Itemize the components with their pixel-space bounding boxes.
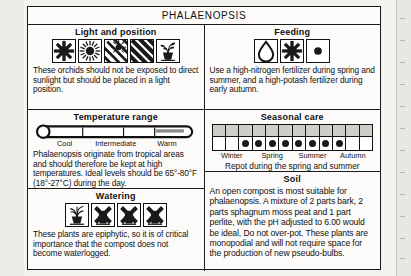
month-cell-header bbox=[253, 125, 265, 137]
soil-heading: Soil bbox=[210, 174, 376, 184]
page-right-edge bbox=[396, 0, 411, 276]
sun-partial-shade-icon bbox=[104, 39, 128, 63]
month-cell bbox=[306, 125, 319, 150]
feeding-text: Use a high-nitrogen fertilizer during sp… bbox=[210, 66, 376, 95]
full-sun-icon bbox=[78, 39, 102, 63]
month-cell-header bbox=[320, 125, 332, 137]
month-cell-marker bbox=[266, 137, 278, 150]
scale-label-warm: Warm bbox=[141, 139, 192, 148]
month-cell bbox=[346, 125, 359, 150]
active-month-dot bbox=[255, 140, 262, 147]
month-cell-marker bbox=[346, 137, 358, 150]
temperature-scale-labels: Cool Intermediate Warm bbox=[33, 139, 199, 148]
month-cell-header bbox=[306, 125, 318, 137]
panel-feeding: Feeding bbox=[205, 25, 381, 109]
light-icon-row bbox=[33, 39, 199, 63]
right-column: Feeding bbox=[205, 25, 381, 271]
watering-blocked-icon bbox=[91, 203, 115, 227]
season-label-summer: Summer bbox=[292, 151, 332, 160]
month-cell-marker bbox=[320, 137, 332, 150]
season-label-autumn: Autumn bbox=[333, 151, 373, 160]
soil-text: An open compost is most suitable for pha… bbox=[210, 186, 376, 259]
card-title-bar: PHALAENOPSIS bbox=[28, 7, 380, 25]
sun-blocked-icon bbox=[52, 39, 76, 63]
month-cell bbox=[293, 125, 306, 150]
month-cell bbox=[239, 125, 252, 150]
active-month-dot bbox=[336, 140, 343, 147]
panel-temperature-range: Temperature range Cool Intermediate Warm bbox=[28, 109, 204, 188]
month-cell bbox=[226, 125, 239, 150]
card-body-grid: Light and position bbox=[28, 25, 380, 271]
scale-label-intermediate: Intermediate bbox=[90, 139, 141, 148]
thermometer-icon bbox=[35, 124, 197, 140]
scale-label-cool: Cool bbox=[39, 139, 90, 148]
light-heading: Light and position bbox=[33, 27, 199, 37]
active-month-dot bbox=[295, 140, 302, 147]
month-cell-header bbox=[226, 125, 238, 137]
potted-plant-icon bbox=[65, 203, 89, 227]
water-drop-icon bbox=[254, 39, 278, 63]
page-title: PHALAENOPSIS bbox=[162, 10, 246, 21]
active-month-dot bbox=[242, 140, 249, 147]
feeding-heading: Feeding bbox=[210, 27, 376, 37]
season-label-winter: Winter bbox=[212, 151, 252, 160]
panel-seasonal-care: Seasonal care Winter Spring Summer Autum… bbox=[205, 109, 381, 171]
active-month-dot bbox=[322, 140, 329, 147]
dot-icon bbox=[306, 39, 330, 63]
sun-blocked-icon bbox=[280, 39, 304, 63]
watering-blocked-icon bbox=[117, 203, 141, 227]
month-cell bbox=[360, 125, 372, 150]
left-column: Light and position bbox=[28, 25, 205, 271]
active-month-dot bbox=[269, 140, 276, 147]
month-cell bbox=[213, 125, 226, 150]
season-labels: Winter Spring Summer Autumn bbox=[212, 151, 374, 160]
month-cell bbox=[279, 125, 292, 150]
potted-plant-icon bbox=[156, 39, 180, 63]
active-month-dot bbox=[309, 140, 316, 147]
month-cell-header bbox=[213, 125, 225, 137]
active-month-dot bbox=[282, 140, 289, 147]
month-cell bbox=[253, 125, 266, 150]
month-cell bbox=[266, 125, 279, 150]
seasonal-month-grid bbox=[212, 124, 374, 151]
panel-watering: Watering bbox=[28, 188, 204, 271]
temperature-heading: Temperature range bbox=[33, 112, 199, 122]
month-cell-marker bbox=[239, 137, 251, 150]
month-cell-header bbox=[346, 125, 358, 137]
month-cell bbox=[333, 125, 346, 150]
panel-soil: Soil An open compost is most suitable fo… bbox=[205, 171, 381, 271]
watering-icon-row bbox=[33, 203, 199, 227]
light-text: These orchids should not be exposed to d… bbox=[33, 66, 199, 95]
month-cell-header bbox=[266, 125, 278, 137]
heavy-shade-icon bbox=[130, 39, 154, 63]
month-cell bbox=[320, 125, 333, 150]
panel-light-and-position: Light and position bbox=[28, 25, 204, 109]
month-cell-header bbox=[279, 125, 291, 137]
month-cell-header bbox=[333, 125, 345, 137]
feeding-icon-row bbox=[210, 39, 376, 63]
month-cell-marker bbox=[279, 137, 291, 150]
month-cell-header bbox=[293, 125, 305, 137]
watering-blocked-icon bbox=[143, 203, 167, 227]
month-cell-marker bbox=[253, 137, 265, 150]
month-cell-marker bbox=[213, 137, 225, 150]
month-cell-header bbox=[360, 125, 372, 137]
watering-text: These plants are epiphytic, so it is of … bbox=[33, 230, 199, 259]
temperature-text: Phalaenopsis originate from tropical are… bbox=[33, 150, 199, 188]
watering-heading: Watering bbox=[33, 191, 199, 201]
season-label-spring: Spring bbox=[252, 151, 292, 160]
care-card: PHALAENOPSIS Light and position bbox=[27, 6, 381, 270]
seasonal-note: Repot during the spring and summer bbox=[210, 161, 376, 171]
page-left-margin bbox=[0, 0, 24, 276]
month-cell-marker bbox=[226, 137, 238, 150]
month-cell-marker bbox=[293, 137, 305, 150]
month-cell-header bbox=[239, 125, 251, 137]
month-cell-marker bbox=[306, 137, 318, 150]
month-cell-marker bbox=[360, 137, 372, 150]
seasonal-heading: Seasonal care bbox=[210, 112, 376, 122]
month-cell-marker bbox=[333, 137, 345, 150]
